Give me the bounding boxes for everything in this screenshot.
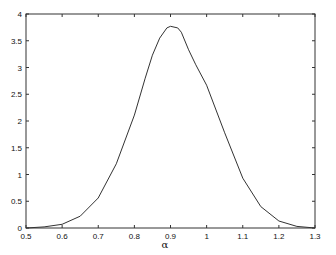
line-chart: 0.50.60.70.80.911.11.21.3 00.511.522.533… — [0, 0, 336, 255]
x-tick-label: 1.3 — [309, 232, 321, 241]
y-tick-label: 3.5 — [11, 37, 23, 46]
y-tick-label: 0.5 — [11, 197, 23, 206]
y-tick-label: 0 — [18, 224, 23, 233]
x-tick-label: 1 — [204, 232, 209, 241]
y-tick-label: 2 — [18, 117, 23, 126]
y-tick-label: 4 — [18, 10, 23, 19]
x-axis-ticks: 0.50.60.70.80.911.11.21.3 — [20, 14, 321, 241]
x-axis-label: α — [162, 239, 169, 250]
y-tick-label: 1.5 — [11, 144, 23, 153]
y-tick-label: 3 — [18, 64, 23, 73]
x-tick-label: 1.2 — [273, 232, 285, 241]
x-tick-label: 1.1 — [237, 232, 249, 241]
x-tick-label: 0.6 — [57, 232, 69, 241]
y-tick-label: 2.5 — [11, 90, 23, 99]
density-curve — [26, 26, 315, 228]
y-axis-ticks: 00.511.522.533.54 — [11, 10, 315, 233]
x-tick-label: 0.7 — [93, 232, 105, 241]
axes-box — [26, 14, 315, 228]
plot-frame — [26, 14, 315, 228]
x-tick-label: 0.8 — [129, 232, 141, 241]
y-tick-label: 1 — [18, 171, 23, 180]
x-tick-label: 0.5 — [20, 232, 32, 241]
